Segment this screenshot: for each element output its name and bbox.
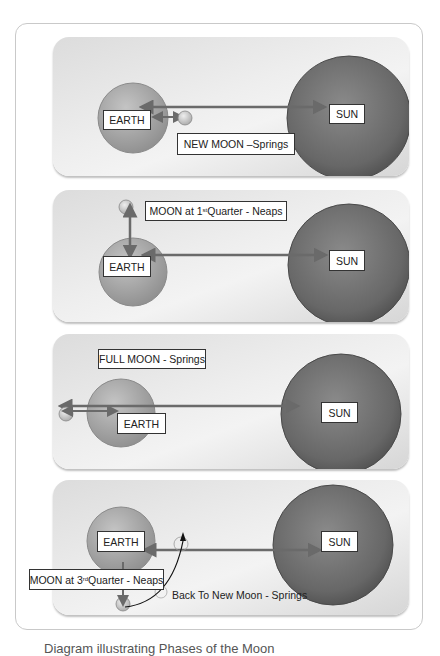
orbit-return-arrowhead [180, 532, 186, 541]
panel-third-quarter: EARTH SUN Back To New Moon - Springs [53, 480, 409, 615]
phase-label-third-quarter: MOON at 3rd Quarter - Neaps [29, 569, 164, 590]
earth-label: EARTH [103, 256, 151, 277]
panel-first-quarter: EARTH SUN MOON at 1st Quarter - Neaps [53, 190, 409, 322]
panel-new-moon: EARTH SUN NEW MOON –Springs [53, 37, 409, 176]
sun-label: SUN [321, 402, 358, 423]
figure-caption: Diagram illustrating Phases of the Moon [44, 641, 275, 656]
moon-circle [59, 407, 73, 421]
sun-label: SUN [321, 531, 358, 552]
phase-label-post: Quarter - Neaps [207, 205, 282, 217]
phase-label: NEW MOON –Springs [177, 133, 295, 155]
moon-circle [178, 111, 192, 125]
return-label: Back To New Moon - Springs [172, 589, 307, 601]
phase-label-post: Quarter - Neaps [88, 574, 163, 586]
phase-label: FULL MOON - Springs [98, 349, 206, 369]
sun-label: SUN [329, 250, 365, 271]
phase-label-pre: MOON at 1 [149, 205, 202, 217]
phase-label-pre: MOON at 3 [30, 574, 83, 586]
earth-label: EARTH [103, 110, 151, 130]
earth-label: EARTH [117, 413, 166, 434]
phase-label: MOON at 1st Quarter - Neaps [145, 201, 287, 221]
earth-label: EARTH [97, 531, 145, 552]
sun-label: SUN [329, 104, 365, 124]
panel-full-moon: FULL MOON - Springs EARTH SUN [53, 334, 409, 469]
